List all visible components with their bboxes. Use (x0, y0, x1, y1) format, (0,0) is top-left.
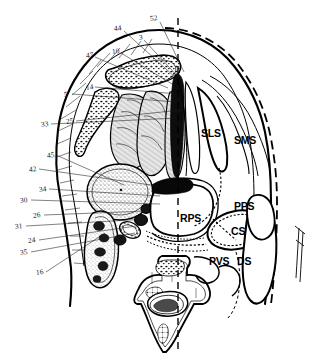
label-cs: CS (231, 226, 245, 237)
label-35: 35 (20, 248, 28, 256)
spinal-canal (148, 292, 188, 317)
label-5: 5 (64, 91, 69, 99)
label-24: 24 (28, 236, 36, 244)
label-47: 47 (86, 51, 94, 59)
cross-section-illustration (0, 0, 319, 362)
label-45: 45 (47, 151, 55, 159)
anatomical-figure: 52 44 3 10 47 14 5 25 33 45 42 34 30 26 … (0, 0, 319, 362)
label-rps: RPS (180, 213, 201, 224)
label-31: 31 (15, 222, 23, 230)
label-30: 30 (20, 196, 28, 204)
label-pvs: PVS (209, 256, 229, 267)
label-52: 52 (150, 14, 158, 22)
label-16: 16 (36, 268, 44, 276)
submandibular-gland (84, 211, 118, 288)
deep-fascia-right-strands (202, 76, 270, 176)
retropharyngeal-dark-band (152, 178, 193, 195)
label-42: 42 (29, 165, 37, 173)
label-sms: SMS (234, 135, 256, 146)
label-34: 34 (39, 185, 47, 193)
label-pps: PPS (234, 201, 254, 212)
right-far-fascia-lines (295, 226, 305, 282)
label-ds: DS (237, 256, 251, 267)
label-33: 33 (41, 120, 49, 128)
label-sls: SLS (201, 128, 221, 139)
label-10: 10 (112, 47, 120, 55)
label-14: 14 (86, 83, 94, 91)
label-3: 3 (139, 34, 144, 42)
label-25: 25 (66, 117, 74, 125)
label-26: 26 (33, 211, 41, 219)
label-44: 44 (114, 24, 122, 32)
